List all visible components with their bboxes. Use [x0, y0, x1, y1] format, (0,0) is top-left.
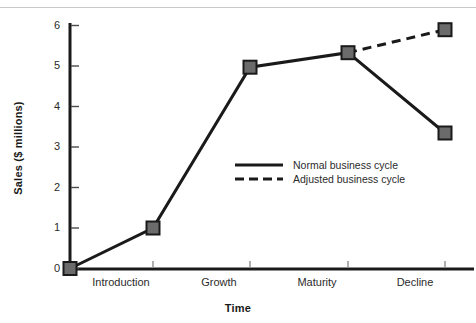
y-tick-label-2: 2	[36, 181, 60, 193]
data-point-marker	[439, 23, 452, 36]
x-axis-title: Time	[0, 302, 476, 314]
y-tick-label-5: 5	[36, 59, 60, 71]
legend-swatches	[235, 165, 283, 179]
y-tick-label-3: 3	[36, 140, 60, 152]
series-markers-adjusted-business-cycle	[439, 23, 452, 36]
x-tick-label-decline: Decline	[356, 276, 474, 288]
y-axis-ticks	[71, 26, 79, 269]
y-axis-title: Sales ($ millions)	[12, 78, 24, 218]
line-chart-figure	[0, 0, 476, 323]
data-point-marker	[244, 61, 257, 74]
data-point-marker	[64, 262, 77, 275]
y-tick-label-0: 0	[36, 262, 60, 274]
data-point-marker	[147, 222, 160, 235]
data-point-marker	[439, 127, 452, 140]
y-tick-label-4: 4	[36, 100, 60, 112]
x-axis-ticks	[153, 261, 445, 268]
y-tick-label-6: 6	[36, 19, 60, 31]
legend-label-adjusted-business-cycle: Adjusted business cycle	[293, 173, 405, 185]
legend-label-normal-business-cycle: Normal business cycle	[293, 159, 398, 171]
series-line-adjusted-business-cycle	[348, 30, 445, 53]
data-point-marker	[342, 46, 355, 59]
y-tick-label-1: 1	[36, 221, 60, 233]
